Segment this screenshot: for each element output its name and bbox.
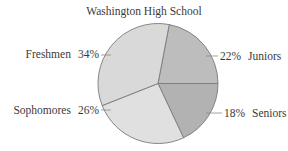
label-sophomores: Sophomores26% — [13, 103, 99, 117]
label-seniors-pct: 18% — [224, 107, 245, 119]
label-juniors: 22%Juniors — [220, 49, 281, 63]
label-freshmen: Freshmen34% — [26, 47, 99, 61]
label-juniors-name: Juniors — [248, 50, 281, 62]
pie-slices — [98, 23, 218, 143]
label-freshmen-pct: 34% — [78, 48, 99, 60]
label-juniors-pct: 22% — [220, 50, 241, 62]
label-seniors-name: Seniors — [252, 107, 287, 119]
label-freshmen-name: Freshmen — [26, 48, 71, 60]
label-seniors: 18%Seniors — [224, 106, 287, 120]
label-sophomores-name: Sophomores — [13, 104, 71, 116]
pie-chart — [0, 0, 288, 151]
label-sophomores-pct: 26% — [78, 104, 99, 116]
